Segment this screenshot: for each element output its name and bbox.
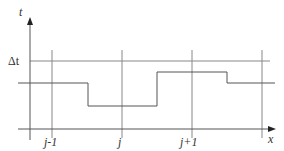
label-j-plus-1: j+1 [178, 135, 197, 149]
label-j: j [116, 135, 122, 149]
step-function [18, 72, 275, 106]
delta-t-label: Δt [8, 54, 20, 68]
label-j-minus-1: j-1 [42, 135, 57, 149]
finite-difference-diagram: t x Δt j-1 j j+1 [0, 0, 284, 151]
x-axis-label: x [267, 132, 274, 146]
y-axis-arrow-icon [27, 17, 33, 25]
y-axis-label: t [19, 5, 23, 19]
